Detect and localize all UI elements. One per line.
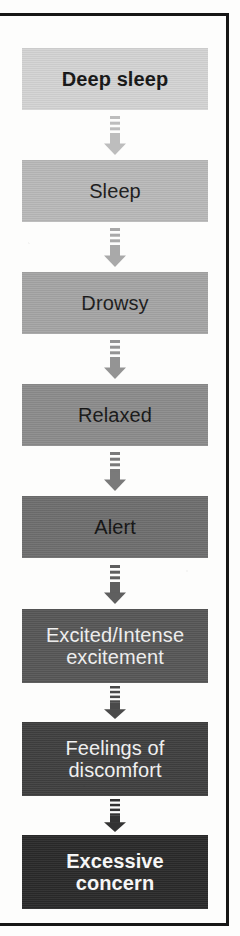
flow-step-drowsy: Drowsy bbox=[22, 272, 208, 334]
down-arrow-icon bbox=[102, 684, 128, 720]
down-arrow-icon bbox=[102, 338, 128, 380]
down-arrow-icon bbox=[102, 226, 128, 268]
flow-step-alert: Alert bbox=[22, 496, 208, 558]
down-arrow-icon bbox=[102, 563, 128, 605]
flow-step-label: Excessiveconcern bbox=[60, 850, 170, 895]
flow-step-deep-sleep: Deep sleep bbox=[22, 48, 208, 110]
flow-step-label: Alert bbox=[88, 516, 142, 538]
down-arrow-icon bbox=[102, 114, 128, 156]
down-arrow-icon bbox=[102, 797, 128, 833]
flow-chart: Deep sleepSleepDrowsyRelaxedAlertExcited… bbox=[0, 0, 240, 936]
flow-step-label: Sleep bbox=[83, 180, 147, 202]
flow-step-excessive-concern: Excessiveconcern bbox=[22, 835, 208, 909]
down-arrow-icon bbox=[102, 450, 128, 492]
flow-step-feelings-of-discomfort: Feelings ofdiscomfort bbox=[22, 722, 208, 796]
flow-step-sleep: Sleep bbox=[22, 160, 208, 222]
flow-step-label: Feelings ofdiscomfort bbox=[60, 737, 171, 782]
flow-step-label: Excited/Intenseexcitement bbox=[40, 624, 190, 669]
flow-step-label: Relaxed bbox=[72, 404, 158, 426]
arousal-continuum-figure: Deep sleepSleepDrowsyRelaxedAlertExcited… bbox=[0, 0, 240, 936]
flow-step-label: Deep sleep bbox=[56, 68, 175, 90]
flow-step-relaxed: Relaxed bbox=[22, 384, 208, 446]
flow-step-excited-intense-excitement: Excited/Intenseexcitement bbox=[22, 609, 208, 683]
flow-step-label: Drowsy bbox=[75, 292, 154, 314]
